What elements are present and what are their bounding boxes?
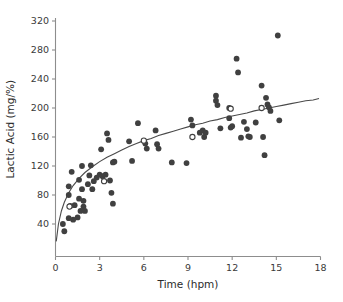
data-point-filled <box>79 163 85 169</box>
data-point-filled <box>66 192 72 198</box>
x-tick-label: 0 <box>52 262 58 273</box>
x-tick-label: 18 <box>314 262 326 273</box>
data-point-filled <box>144 146 150 152</box>
data-point-filled <box>109 190 115 196</box>
x-axis-title: Time (hpm) <box>157 278 219 290</box>
data-point-filled <box>107 178 113 184</box>
data-point-filled <box>60 221 66 227</box>
data-point-filled <box>275 33 281 39</box>
data-points-group <box>60 33 282 235</box>
data-point-filled <box>184 160 190 166</box>
data-point-filled <box>69 169 75 175</box>
data-point-filled <box>72 202 78 208</box>
data-point-filled <box>203 130 209 136</box>
data-point-filled <box>241 119 247 125</box>
data-point-open <box>190 134 195 139</box>
data-point-filled <box>190 123 196 129</box>
axes-group <box>52 18 321 260</box>
data-point-filled <box>61 228 67 234</box>
y-axis-title: Lactic Acid (mg/%) <box>4 80 16 179</box>
x-tick-label: 9 <box>185 262 191 273</box>
data-point-filled <box>247 134 253 140</box>
data-point-filled <box>66 183 72 189</box>
y-tick-label: 320 <box>31 15 49 26</box>
y-tick-label: 40 <box>37 218 49 229</box>
data-point-filled <box>259 83 265 89</box>
x-tick-label: 6 <box>141 262 147 273</box>
data-point-filled <box>82 208 88 214</box>
data-point-filled <box>238 135 244 141</box>
data-point-filled <box>244 126 250 132</box>
y-tick-label: 80 <box>37 189 49 200</box>
data-point-filled <box>129 158 135 164</box>
data-point-filled <box>126 138 132 144</box>
data-point-filled <box>169 159 175 165</box>
y-tick-label: 160 <box>31 131 49 142</box>
y-tick-label: 120 <box>31 160 49 171</box>
data-point-filled <box>135 120 141 126</box>
data-point-filled <box>98 146 104 152</box>
plot-area: 40801201602002402803200369121518Time (hp… <box>0 0 343 302</box>
data-point-filled <box>86 173 92 179</box>
x-tick-label: 15 <box>270 262 282 273</box>
data-point-filled <box>268 108 274 114</box>
data-point-filled <box>104 130 110 136</box>
data-point-filled <box>111 159 117 165</box>
data-point-filled <box>106 137 112 143</box>
x-tick-label: 12 <box>226 262 238 273</box>
y-tick-label: 280 <box>31 44 49 55</box>
data-point-open <box>141 138 146 143</box>
data-point-filled <box>262 152 268 158</box>
data-point-filled <box>253 120 259 126</box>
data-point-open <box>101 179 106 184</box>
data-point-filled <box>89 186 95 192</box>
scatter-chart: 40801201602002402803200369121518Time (hp… <box>0 0 343 302</box>
data-point-open <box>228 106 233 111</box>
data-point-filled <box>156 146 162 152</box>
data-point-filled <box>263 95 269 101</box>
data-point-filled <box>235 70 241 76</box>
data-point-filled <box>188 117 194 123</box>
data-point-filled <box>234 56 240 62</box>
data-point-filled <box>213 93 219 99</box>
y-tick-label: 240 <box>31 73 49 84</box>
data-point-filled <box>153 128 159 134</box>
data-point-filled <box>88 162 94 168</box>
data-point-filled <box>79 186 85 192</box>
data-point-filled <box>110 201 116 207</box>
data-point-filled <box>76 177 82 183</box>
data-point-filled <box>215 102 221 108</box>
data-point-filled <box>260 134 266 140</box>
data-point-filled <box>81 198 87 204</box>
data-point-filled <box>103 172 109 178</box>
data-point-filled <box>75 215 81 221</box>
data-point-open <box>67 204 72 209</box>
axis-labels-group: 40801201602002402803200369121518Time (hp… <box>4 15 327 289</box>
data-point-filled <box>229 123 235 129</box>
data-point-filled <box>226 115 232 121</box>
data-point-filled <box>85 181 91 187</box>
data-point-open <box>259 105 264 110</box>
data-point-filled <box>217 125 223 131</box>
y-tick-label: 200 <box>31 102 49 113</box>
x-tick-label: 3 <box>97 262 103 273</box>
data-point-filled <box>276 117 282 123</box>
